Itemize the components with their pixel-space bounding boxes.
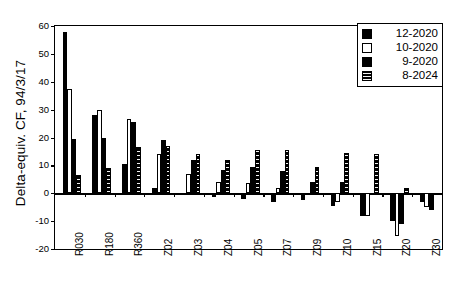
bar-R360-8-2024 — [136, 147, 141, 193]
y-tick-label: 30 — [38, 105, 49, 115]
legend-item-8-2024: 8-2024 — [362, 69, 438, 83]
x-tick-label-Z02: Z02 — [164, 239, 174, 256]
y-tick-label: 50 — [38, 49, 49, 59]
bar-group — [92, 26, 110, 249]
x-tick-label-Z03: Z03 — [194, 239, 204, 256]
bar-Z10-10-2020 — [335, 193, 340, 201]
bar-Z15-10-2020 — [365, 193, 370, 215]
y-tick-mark — [51, 249, 55, 250]
bar-Z09-10-2020 — [305, 193, 310, 195]
bar-R030-8-2024 — [76, 175, 81, 193]
legend-label: 10-2020 — [378, 42, 438, 54]
bar-group — [241, 26, 259, 249]
bar-Z30-8-2024 — [434, 193, 439, 195]
x-tick-label-Z20: Z20 — [402, 239, 412, 256]
legend-item-10-2020: 10-2020 — [362, 41, 438, 55]
bar-Z03-8-2024 — [196, 154, 201, 193]
legend-swatch-icon — [362, 29, 372, 39]
y-tick-label: -10 — [35, 216, 49, 226]
bar-Z07-12-2020 — [271, 193, 276, 201]
bar-group — [122, 26, 140, 249]
y-tick-label: 40 — [38, 77, 49, 87]
bar-R180-8-2024 — [106, 168, 111, 193]
legend-item-9-2020: 9-2020 — [362, 55, 438, 69]
x-tick-label-Z07: Z07 — [283, 239, 293, 256]
bar-Z20-8-2024 — [404, 188, 409, 194]
bar-Z15-9-2020 — [370, 193, 375, 195]
legend-swatch-icon — [362, 71, 372, 81]
y-tick-label: 10 — [38, 161, 49, 171]
y-tick-label: 20 — [38, 133, 49, 143]
legend-swatch-icon — [362, 57, 372, 67]
x-tick-label-Z09: Z09 — [313, 239, 323, 256]
y-axis-title: Delta-equiv. CF, 94/3/17 — [10, 8, 32, 258]
bar-Z15-8-2024 — [374, 154, 379, 193]
bar-group — [271, 26, 289, 249]
bar-chart-figure: Delta-equiv. CF, 94/3/17 6050403020100-1… — [0, 0, 462, 300]
x-tick-label-R030: R030 — [75, 232, 85, 256]
bar-Z04-12-2020 — [212, 193, 217, 197]
x-tick-label-Z04: Z04 — [224, 239, 234, 256]
bar-Z05-8-2024 — [255, 150, 260, 193]
y-tick-label: 60 — [38, 21, 49, 31]
x-tick-label-R180: R180 — [105, 232, 115, 256]
bar-Z20-9-2020 — [399, 193, 404, 224]
bar-Z02-8-2024 — [166, 146, 171, 193]
legend-item-12-2020: 12-2020 — [362, 27, 438, 41]
bar-Z05-12-2020 — [241, 193, 246, 199]
bar-Z10-8-2024 — [344, 153, 349, 193]
bar-Z30-9-2020 — [429, 193, 434, 210]
x-tick-label-Z30: Z30 — [432, 239, 442, 256]
x-tick-label-R360: R360 — [134, 232, 144, 256]
bar-group — [301, 26, 319, 249]
bar-group — [152, 26, 170, 249]
x-tick-label-Z10: Z10 — [343, 239, 353, 256]
bar-Z03-12-2020 — [182, 193, 187, 195]
bar-Z07-8-2024 — [285, 150, 290, 193]
bar-group — [212, 26, 230, 249]
legend-swatch-icon — [362, 43, 372, 53]
x-tick-label-Z15: Z15 — [373, 239, 383, 256]
bar-Z09-8-2024 — [315, 167, 320, 193]
legend-label: 8-2024 — [378, 70, 438, 82]
bar-group — [63, 26, 81, 249]
legend-label: 9-2020 — [378, 56, 438, 68]
bar-group — [331, 26, 349, 249]
bar-Z04-8-2024 — [225, 160, 230, 193]
legend-label: 12-2020 — [378, 28, 438, 40]
chart-legend: 12-202010-20209-20208-2024 — [357, 23, 443, 87]
y-tick-label: -20 — [35, 244, 49, 254]
bar-group — [182, 26, 200, 249]
y-tick-label: 0 — [44, 189, 49, 199]
x-tick-label-Z05: Z05 — [254, 239, 264, 256]
